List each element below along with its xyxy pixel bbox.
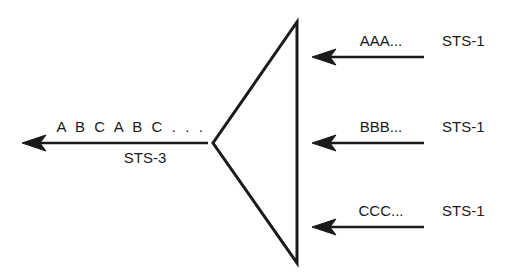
multiplexer-triangle: [213, 22, 297, 263]
input-3-signal-label: CCC...: [359, 203, 404, 218]
output-signal-label: A B C A B C . . .: [56, 119, 205, 134]
output-rate-label: STS-3: [124, 150, 167, 165]
input-arrow-2: [312, 135, 424, 151]
input-2-signal-label: BBB...: [360, 119, 403, 134]
output-arrow-sts3: [22, 135, 208, 151]
input-3-rate-label: STS-1: [442, 203, 485, 218]
input-2-rate-label: STS-1: [442, 119, 485, 134]
input-arrow-1: [312, 49, 424, 65]
diagram-canvas: A B C A B C . . . STS-3 AAA... STS-1 BBB…: [0, 0, 519, 277]
input-1-signal-label: AAA...: [360, 33, 403, 48]
input-1-rate-label: STS-1: [442, 33, 485, 48]
input-arrow-3: [312, 219, 424, 235]
